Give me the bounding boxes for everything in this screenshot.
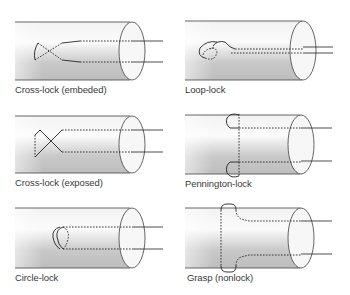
panel-pennington-lock: Pennington-lock: [175, 100, 350, 198]
tendon-cylinder: [185, 208, 314, 268]
panel-label: Grasp (nonlock): [187, 272, 253, 283]
panel-circle-lock: Circle-lock: [0, 195, 175, 293]
panel-loop-lock: Loop-lock: [175, 0, 350, 98]
panel-label: Pennington-lock: [185, 178, 252, 189]
panel-label: Circle-lock: [15, 272, 58, 283]
tendon-cylinder: [185, 21, 316, 80]
tendon-cut-end: [119, 116, 145, 173]
tendon-cut-end: [119, 208, 145, 268]
panel-cross-lock-exposed: Cross-lock (exposed): [0, 100, 175, 198]
panel-label: Loop-lock: [185, 84, 225, 95]
tendon-cylinder: [15, 116, 145, 173]
tendon-cylinder: [15, 208, 145, 268]
tendon-cut-end: [290, 21, 316, 80]
panel-label: Cross-lock (exposed): [15, 177, 103, 188]
tendon-cut-end: [288, 115, 314, 174]
panel-grasp-nonlock: Grasp (nonlock): [175, 195, 350, 293]
panel-cross-lock-embedded: Cross-lock (embeded): [0, 0, 175, 98]
tendon-cut-end: [119, 22, 145, 80]
panel-label: Cross-lock (embeded): [15, 84, 106, 95]
tendon-cut-end: [288, 208, 314, 268]
tendon-cylinder: [185, 115, 314, 174]
